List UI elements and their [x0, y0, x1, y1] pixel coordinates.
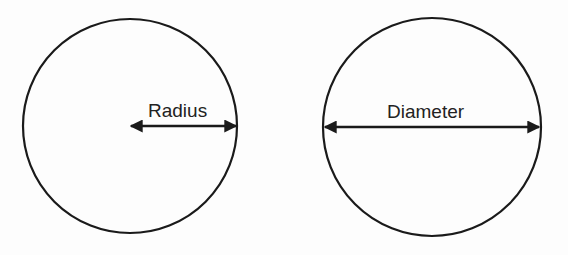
diameter-label: Diameter — [387, 101, 465, 122]
diameter-figure: Diameter — [323, 18, 541, 236]
radius-label: Radius — [148, 100, 207, 121]
radius-figure: Radius — [23, 19, 237, 233]
circle-diagram: Radius Diameter — [0, 0, 568, 255]
